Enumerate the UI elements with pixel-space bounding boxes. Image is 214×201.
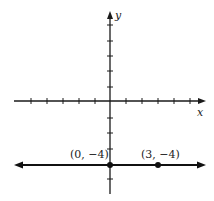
line-left-arrow-icon [14,162,23,169]
y-axis-arrow-icon [107,11,113,19]
y-axis-label: y [114,9,122,22]
point-0-minus-4 [107,162,113,168]
coordinate-graph: x y (0, −4) (3, −4) [0,0,214,201]
x-axis-label: x [197,106,204,119]
line-right-arrow-icon [197,162,206,169]
point-label-0-minus-4: (0, −4) [70,148,109,161]
x-axis-arrow-icon [198,98,206,104]
point-3-minus-4 [155,162,161,168]
point-label-3-minus-4: (3, −4) [141,148,180,161]
